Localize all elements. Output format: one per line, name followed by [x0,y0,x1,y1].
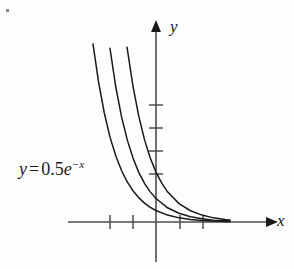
exponential-decay-figure: y x y=0.5e−x [0,0,294,269]
equation-exponent: −x [72,158,84,170]
x-axis-label: x [277,212,285,229]
equation-equals: = [27,159,41,179]
y-axis [149,20,163,262]
y-axis-arrowhead-icon [151,20,161,32]
equation-lhs: y [19,159,27,179]
equation-base: e [64,159,72,179]
equation-annotation: y=0.5e−x [19,160,84,178]
equation-coefficient: 0.5 [41,159,64,179]
curve-family [93,44,230,222]
plot-canvas [0,0,294,269]
y-axis-label: y [170,18,178,35]
exponential-curve-right [127,47,230,220]
